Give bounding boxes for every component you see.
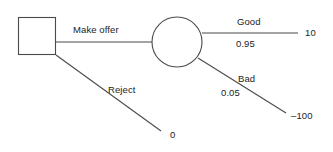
branch-label-good: Good xyxy=(237,16,261,27)
branch-probability-bad: 0.05 xyxy=(221,87,240,98)
branch-probability-good: 0.95 xyxy=(236,38,255,49)
branch-label-make-offer: Make offer xyxy=(73,24,119,35)
branch-label-bad: Bad xyxy=(238,73,255,84)
chance-node-circle[interactable] xyxy=(152,17,202,67)
terminal-payoff-bad: –100 xyxy=(291,110,313,121)
terminal-payoff-reject: 0 xyxy=(170,129,175,140)
decision-tree-diagram: Make offer Reject Good 0.95 Bad 0.05 10 … xyxy=(0,0,333,152)
decision-node-square[interactable] xyxy=(19,18,56,55)
terminal-payoff-good: 10 xyxy=(305,27,316,38)
branch-line-bad[interactable] xyxy=(198,58,286,113)
diagram-canvas xyxy=(0,0,333,152)
branch-label-reject: Reject xyxy=(108,84,136,95)
